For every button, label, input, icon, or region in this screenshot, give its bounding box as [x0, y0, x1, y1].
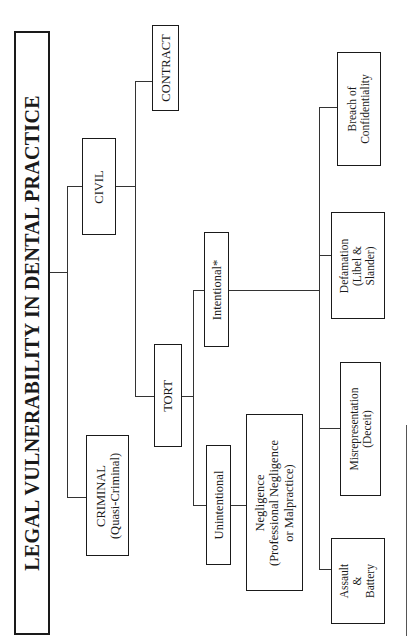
connector	[116, 186, 135, 187]
defamation-sublabel-1: (Libel &	[351, 238, 364, 292]
connector	[319, 428, 340, 429]
connector	[229, 290, 319, 291]
connector	[193, 290, 204, 291]
connector	[67, 186, 68, 497]
connector	[319, 107, 320, 569]
defamation-label: Defamation	[338, 238, 351, 292]
node-defamation: Defamation (Libel & Slander)	[331, 212, 385, 319]
criminal-sublabel: (Quasi-Criminal)	[108, 452, 122, 538]
node-criminal: CRIMINAL (Quasi-Criminal)	[86, 435, 129, 556]
connector	[135, 81, 152, 82]
node-misrepresentation: Misrepresentation (Deceit)	[340, 362, 381, 496]
misrepresentation-label: Misrepresentation	[347, 387, 360, 470]
contract-label: CONTRACT	[158, 34, 172, 101]
assault-label-3: Battery	[365, 564, 378, 599]
node-assault-battery: Assault & Battery	[331, 538, 385, 624]
connector	[193, 290, 194, 505]
civil-label: CIVIL	[92, 170, 106, 203]
node-breach-of-confidentiality: Breach of Confidentiality	[337, 52, 381, 166]
connector	[231, 505, 246, 506]
defamation-sublabel-2: Slander)	[365, 238, 378, 292]
connector	[67, 497, 86, 498]
breach-label-2: Confidentiality	[359, 74, 372, 144]
connector	[50, 272, 67, 273]
connector	[319, 569, 331, 570]
connector	[135, 396, 154, 397]
connector	[193, 505, 206, 506]
node-tort: TORT	[154, 344, 182, 447]
node-contract: CONTRACT	[152, 25, 179, 111]
node-intentional: Intentional*	[204, 232, 229, 347]
connector	[135, 81, 136, 396]
node-negligence: Negligence (Professional Negligence or M…	[246, 414, 303, 591]
footnote-rule	[406, 425, 407, 636]
unintentional-label: Unintentional	[211, 471, 225, 540]
node-civil: CIVIL	[82, 138, 116, 235]
breach-label-1: Breach of	[346, 74, 359, 144]
criminal-label: CRIMINAL	[93, 452, 107, 538]
intentional-label: Intentional*	[209, 259, 223, 319]
assault-label-1: Assault	[338, 564, 351, 599]
connector	[182, 396, 193, 397]
negligence-sublabel-2: or Malpractice)	[282, 439, 296, 565]
tort-label: TORT	[161, 380, 175, 412]
negligence-label: Negligence	[253, 439, 267, 565]
misrepresentation-sublabel: (Deceit)	[361, 387, 374, 470]
connector	[319, 255, 331, 256]
assault-label-2: &	[351, 564, 364, 599]
connector	[67, 186, 82, 187]
negligence-sublabel-1: (Professional Negligence	[267, 439, 281, 565]
diagram-title: LEGAL VULNERABILITY IN DENTAL PRACTICE	[21, 95, 44, 571]
title-box: LEGAL VULNERABILITY IN DENTAL PRACTICE	[14, 31, 50, 635]
node-unintentional: Unintentional	[206, 445, 231, 565]
connector	[319, 107, 337, 108]
